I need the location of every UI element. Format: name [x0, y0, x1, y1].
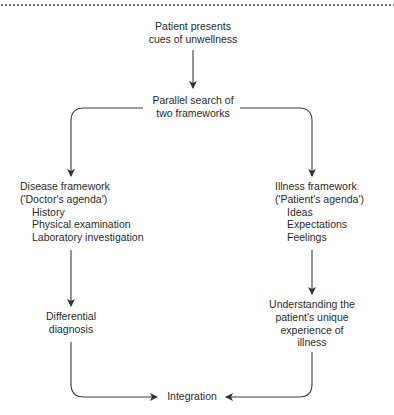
framework-item: Ideas — [275, 206, 364, 219]
edge-differential-to-integration — [71, 342, 157, 397]
framework-subtitle: ('Doctor's agenda') — [20, 193, 144, 206]
node-patient-presents: Patient presents cues of unwellness — [133, 20, 253, 46]
node-text-line: two frameworks — [133, 107, 253, 120]
framework-item: Feelings — [275, 231, 364, 244]
edge-understanding-to-integration — [226, 352, 312, 397]
framework-item: Physical examination — [20, 218, 144, 231]
node-illness-framework: Illness framework ('Patient's agenda') I… — [275, 180, 364, 244]
node-differential-diagnosis: Differential diagnosis — [21, 310, 121, 336]
node-disease-framework: Disease framework ('Doctor's agenda') Hi… — [20, 180, 144, 244]
node-text-line: Parallel search of — [133, 94, 253, 107]
node-text-line: patient's unique — [257, 311, 367, 324]
framework-item: Laboratory investigation — [20, 231, 144, 244]
node-text-line: Differential — [21, 310, 121, 323]
node-text-line: Understanding the — [257, 298, 367, 311]
framework-title: Disease framework — [20, 180, 144, 193]
node-text-line: Patient presents — [133, 20, 253, 33]
framework-item: History — [20, 206, 144, 219]
integration-label: Integration — [161, 390, 223, 403]
node-understanding-patient: Understanding the patient's unique exper… — [257, 298, 367, 349]
framework-subtitle: ('Patient's agenda') — [275, 193, 364, 206]
node-text-line: cues of unwellness — [133, 33, 253, 46]
framework-title: Illness framework — [275, 180, 364, 193]
node-text-line: illness — [257, 336, 367, 349]
node-integration: Integration — [161, 390, 223, 403]
node-parallel-search: Parallel search of two frameworks — [133, 94, 253, 120]
framework-item: Expectations — [275, 218, 364, 231]
node-text-line: experience of — [257, 324, 367, 337]
node-text-line: diagnosis — [21, 323, 121, 336]
